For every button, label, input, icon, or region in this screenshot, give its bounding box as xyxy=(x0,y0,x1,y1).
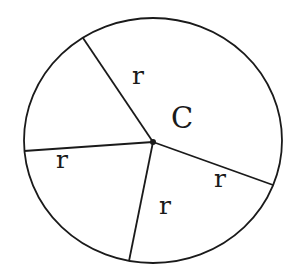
radius-left xyxy=(24,142,153,151)
radius-bottom xyxy=(129,142,153,261)
radius-top-left xyxy=(83,38,153,142)
circle-diagram: C r r r r xyxy=(0,0,303,276)
radius-label-top: r xyxy=(132,61,144,90)
radius-right xyxy=(153,142,273,185)
radius-label-right: r xyxy=(214,164,226,193)
radius-label-left: r xyxy=(56,145,68,174)
radius-label-bottom: r xyxy=(159,191,171,220)
center-label: C xyxy=(171,101,193,135)
center-point xyxy=(150,139,156,145)
